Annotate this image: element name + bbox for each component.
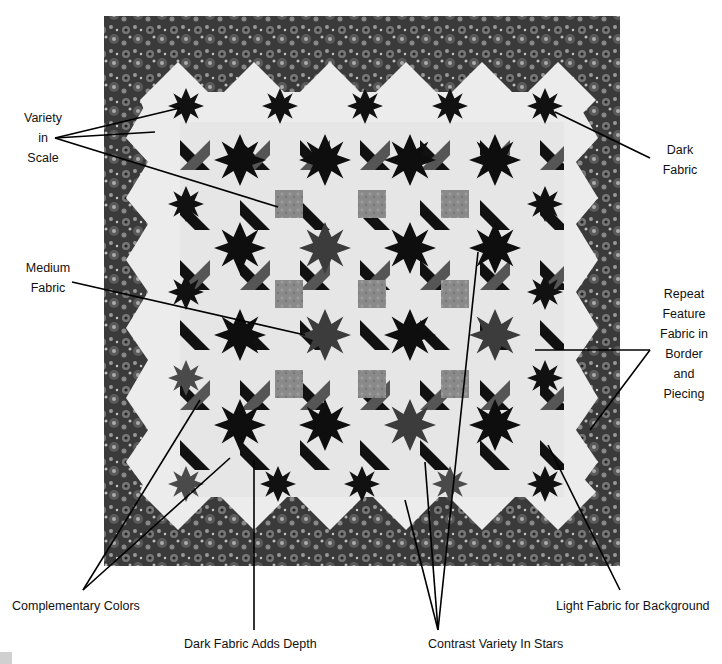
corner-mark [0, 652, 12, 664]
label-contrast-variety-in-stars: Contrast Variety In Stars [428, 634, 563, 654]
label-medium-fabric: Medium Fabric [18, 258, 78, 298]
label-repeat-feature-fabric: Repeat Feature Fabric in Border and Piec… [648, 284, 720, 404]
label-dark-fabric: Dark Fabric [650, 140, 710, 180]
label-variety-in-scale: Variety in Scale [14, 108, 72, 168]
annotated-quilt-figure: Variety in Scale Dark Fabric Medium Fabr… [0, 0, 722, 664]
label-light-fabric-for-background: Light Fabric for Background [556, 596, 710, 616]
label-dark-fabric-adds-depth: Dark Fabric Adds Depth [184, 634, 317, 654]
quilt-illustration [0, 0, 722, 664]
label-complementary-colors: Complementary Colors [12, 596, 140, 616]
